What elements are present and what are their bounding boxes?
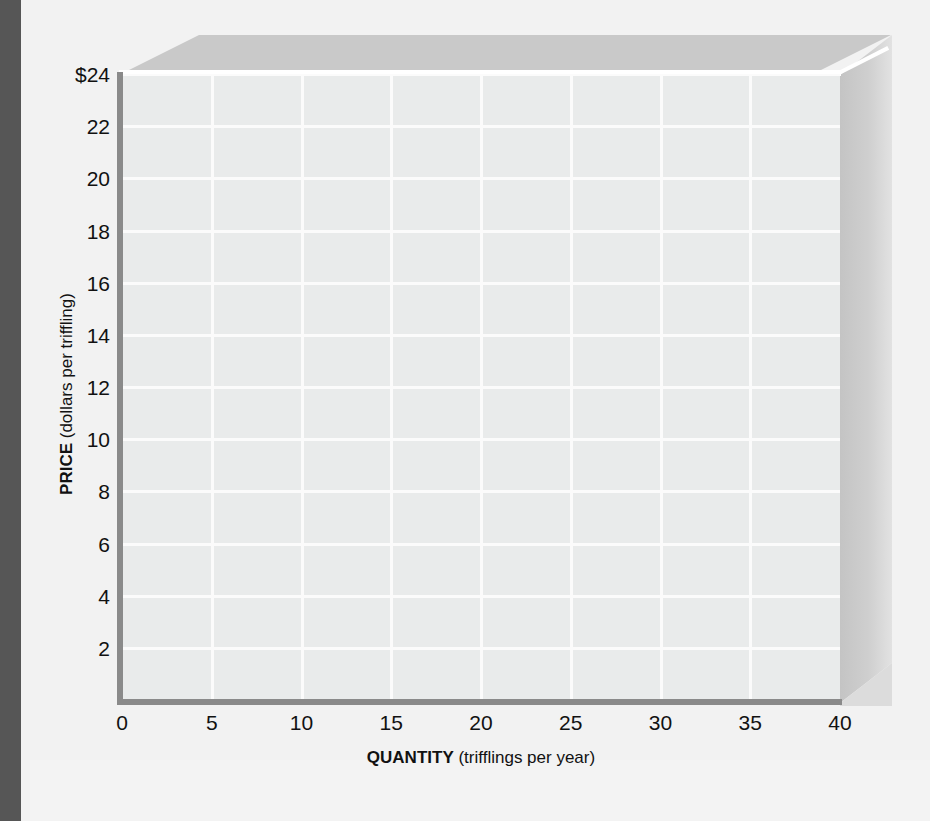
gridline-vertical	[301, 74, 304, 700]
y-axis-tick-labels: $24222018161412108642	[45, 0, 110, 821]
gridline-vertical	[480, 74, 483, 700]
x-axis-title-bold: QUANTITY	[367, 748, 454, 767]
x-axis-title: QUANTITY (trifflings per year)	[122, 748, 840, 768]
x-tick-label: 15	[361, 712, 421, 733]
x-axis-line	[117, 699, 842, 705]
slab-right-face	[840, 35, 892, 703]
gridline-vertical	[390, 74, 393, 700]
slab-top-face	[119, 35, 891, 75]
x-tick-label: 35	[720, 712, 780, 733]
x-tick-label: 40	[810, 712, 870, 733]
gridline-vertical	[570, 74, 573, 700]
page-background-lower	[0, 760, 930, 821]
x-tick-label: 5	[182, 712, 242, 733]
gridline-vertical	[660, 74, 663, 700]
chart-page: $24222018161412108642 0510152025303540 Q…	[0, 0, 930, 821]
x-axis-title-rest: (trifflings per year)	[454, 748, 595, 767]
x-tick-label: 25	[541, 712, 601, 733]
y-tick-label: $24	[50, 64, 110, 85]
plot-area	[122, 74, 840, 700]
gridline-vertical	[749, 74, 752, 700]
y-axis-title: PRICE (dollars per triffling)	[57, 84, 77, 704]
x-tick-label: 0	[92, 712, 152, 733]
y-axis-title-rest: (dollars per triffling)	[57, 293, 76, 443]
y-axis-line	[117, 72, 123, 705]
y-axis-title-bold: PRICE	[57, 443, 76, 495]
x-tick-label: 20	[451, 712, 511, 733]
x-tick-label: 10	[272, 712, 332, 733]
x-axis-tick-labels: 0510152025303540	[0, 712, 930, 742]
gridline-vertical	[211, 74, 214, 700]
slab-corner-highlight	[833, 36, 897, 80]
left-gutter-bar	[0, 0, 21, 821]
x-tick-label: 30	[631, 712, 691, 733]
